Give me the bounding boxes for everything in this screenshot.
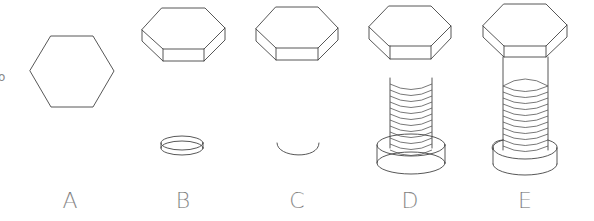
step-a-hexagon (30, 36, 114, 107)
step-c-arc (277, 143, 319, 155)
step-d-thread-cylinder (390, 78, 432, 156)
step-label-e: E (518, 190, 532, 212)
step-d-collar (377, 134, 445, 174)
step-label-a: A (62, 190, 77, 212)
step-c-hex-prism (256, 7, 338, 60)
step-d-hex-prism (369, 6, 451, 59)
step-label-b: B (176, 190, 190, 212)
step-label-c: C (289, 190, 304, 212)
step-b-hex-prism (142, 8, 225, 61)
step-e-hex-prism (483, 4, 567, 57)
step-label-d: D (402, 190, 419, 212)
step-b-ring (161, 136, 203, 155)
step-e-threaded-shank (503, 57, 548, 152)
bolt-construction-diagram: o (0, 0, 594, 221)
